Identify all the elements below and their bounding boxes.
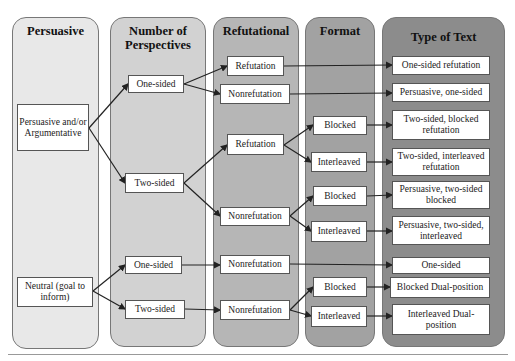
node-blocked-nonrefutation: Blocked xyxy=(313,186,367,206)
node-refutation-one-sided: Refutation xyxy=(227,56,284,76)
node-refutation-two-sided: Refutation xyxy=(227,134,284,155)
node-neutral: Neutral (goal to inform) xyxy=(17,277,93,307)
node-type-persuasive-one-sided: Persuasive, one-sided xyxy=(392,83,490,102)
node-blocked-neutral: Blocked xyxy=(313,277,367,297)
node-two-sided-persuasive: Two-sided xyxy=(125,173,184,193)
node-nonrefutation-neutral-one-sided: Nonrefutation xyxy=(220,255,290,274)
node-type-two-sided-interleaved-refutation: Two-sided, interleaved refutation xyxy=(392,148,490,176)
node-nonrefutation-neutral-two-sided: Nonrefutation xyxy=(220,300,290,320)
node-interleaved-nonrefutation: Interleaved xyxy=(311,221,367,242)
node-type-two-sided-blocked-refutation: Two-sided, blocked refutation xyxy=(392,110,490,140)
node-blocked-refutation: Blocked xyxy=(313,116,367,135)
node-persuasive-argumentative: Persuasive and/or Argumentative xyxy=(17,104,89,151)
node-interleaved-refutation: Interleaved xyxy=(311,152,367,172)
node-type-interleaved-dual-position: Interleaved Dual-position xyxy=(392,304,490,335)
node-type-one-sided-refutation: One-sided refutation xyxy=(392,56,490,75)
node-type-one-sided: One-sided xyxy=(392,257,490,274)
node-nonrefutation-one-sided: Nonrefutation xyxy=(220,84,290,104)
node-interleaved-neutral: Interleaved xyxy=(311,306,367,327)
bottom-rule xyxy=(8,354,508,355)
node-type-blocked-dual-position: Blocked Dual-position xyxy=(390,277,490,298)
node-type-persuasive-two-sided-interleaved: Persuasive, two-sided, interleaved xyxy=(392,216,490,245)
node-two-sided-neutral: Two-sided xyxy=(125,300,185,319)
node-one-sided-persuasive: One-sided xyxy=(128,75,184,93)
node-nonrefutation-two-sided: Nonrefutation xyxy=(220,207,290,226)
node-one-sided-neutral: One-sided xyxy=(125,256,182,274)
node-type-persuasive-two-sided-blocked: Persuasive, two-sided blocked xyxy=(392,181,490,209)
